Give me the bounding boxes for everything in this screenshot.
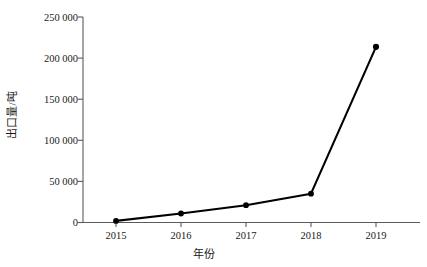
x-tick-label: 2016 xyxy=(171,231,192,242)
x-tick-label: 2019 xyxy=(366,231,387,242)
x-tick-label: 2018 xyxy=(301,231,322,242)
chart-figure: 出口量/吨 250 000 200 000 150 000 100 000 50… xyxy=(0,0,427,267)
x-axis-tick-labels: 2015 2016 2017 2018 2019 xyxy=(0,0,427,267)
x-tick-label: 2015 xyxy=(106,231,127,242)
x-tick-label: 2017 xyxy=(236,231,257,242)
x-axis-title-text: 年份 xyxy=(193,248,215,260)
x-axis-title: 年份 xyxy=(0,245,427,261)
